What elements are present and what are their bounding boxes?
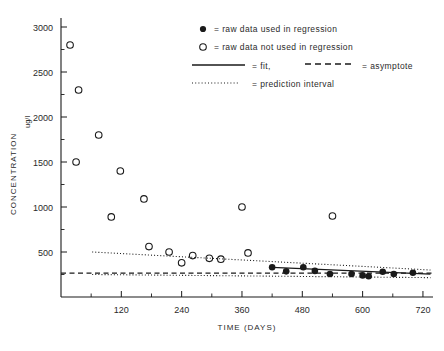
legend-label-0: = raw data used in regression [214,24,337,34]
legend-open-circle-icon [200,44,207,51]
y-axis-unit: ug/l [23,116,32,128]
x-axis-ticks: 120240360480600720 [91,291,430,315]
legend: = raw data used in regression = raw data… [192,24,413,89]
data-point-filled [269,264,276,271]
data-point-filled [390,271,397,278]
legend-label-3: = asymptote [362,61,413,71]
y-tick-label: 2500 [33,68,53,78]
data-point-open [245,250,252,257]
data-point-open [146,243,153,250]
y-tick-label: 500 [38,248,53,258]
y-axis-ticks: 50010001500200025003000 [33,23,67,275]
x-tick-label: 480 [295,305,310,315]
x-axis-title: TIME (DAYS) [218,323,277,332]
x-tick-label: 240 [174,305,189,315]
legend-label-4: = prediction interval [252,79,334,89]
data-point-open [329,213,336,220]
data-point-open [178,260,185,267]
y-tick-label: 1500 [33,158,53,168]
open-circle-points [67,42,336,266]
data-point-open [67,42,74,49]
x-tick-label: 360 [234,305,249,315]
y-axis-title: CONCENTRATION [9,133,18,215]
data-point-open [141,196,148,203]
x-tick-label: 720 [415,305,430,315]
data-point-open [108,214,115,221]
data-point-filled [327,271,334,278]
legend-label-2: = fit, [252,61,271,71]
figure-panel: 50010001500200025003000 1202403604806007… [0,0,444,351]
prediction-interval-upper [92,252,430,270]
chart-svg: 50010001500200025003000 1202403604806007… [0,0,444,351]
y-tick-label: 3000 [33,23,53,33]
y-tick-label: 2000 [33,113,53,123]
legend-filled-circle-icon [200,26,206,32]
data-point-filled [312,268,319,275]
data-point-open [75,87,82,94]
y-tick-label: 1000 [33,203,53,213]
filled-circle-points [269,264,416,280]
x-tick-label: 600 [355,305,370,315]
data-point-filled [379,269,386,276]
data-point-filled [348,271,355,278]
data-point-filled [410,269,417,276]
data-point-open [166,249,173,256]
data-point-filled [300,264,307,271]
prediction-interval-lower [92,275,430,278]
data-point-filled [359,272,366,279]
data-point-open [95,132,102,139]
axis-frame [61,18,433,297]
legend-label-1: = raw data not used in regression [214,42,353,52]
data-point-open [189,252,196,259]
data-point-open [117,168,124,175]
data-point-open [73,159,80,166]
data-point-open [239,204,246,211]
x-tick-label: 120 [114,305,129,315]
data-point-filled [365,273,372,280]
data-point-filled [283,268,290,275]
